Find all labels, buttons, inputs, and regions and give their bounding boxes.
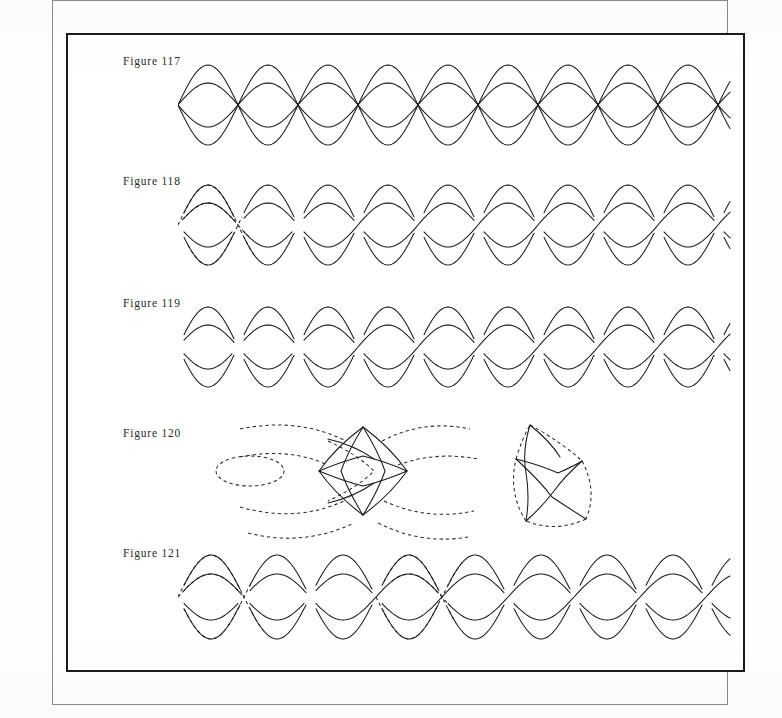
figure-119-label: Figure 119 [123,297,181,309]
construction-line [514,459,526,521]
figure-plate: Figure 117 Figure 118 Figure 119 Figure … [66,33,745,672]
ribbon-line [184,185,730,265]
ribbon-line [184,325,730,369]
figure-121-artwork [178,537,738,663]
ribbon-line [184,307,730,387]
construction-line [240,453,328,465]
ribbon-line [184,185,730,265]
ribbon-line [184,203,730,247]
figure-120-artwork [178,411,738,541]
ribbon-line [319,471,407,486]
ribbon-line [178,65,730,145]
ribbon-line [184,555,730,639]
ribbon-line [341,427,363,515]
construction-line [384,555,456,623]
construction-line [516,425,530,459]
construction-line [382,426,470,441]
ribbon-line [525,425,530,521]
ribbon-line [178,83,730,127]
ribbon-line [178,65,730,145]
ribbon-line [184,203,730,247]
ribbon-line [184,325,730,369]
construction-line [582,461,591,519]
ribbon-line [363,427,385,515]
construction-line [398,456,478,465]
ribbon-line [516,459,586,519]
figure-118-artwork [178,171,738,279]
figure-119-artwork [178,291,738,403]
construction-line [248,523,354,538]
construction-line [184,581,252,639]
ribbon-line [184,555,730,639]
construction-line [384,501,474,514]
figure-121-label: Figure 121 [123,547,181,559]
figure-117-label: Figure 117 [123,55,181,67]
construction-line [178,185,256,257]
ribbon-line [178,83,730,127]
ribbon-line [319,456,407,471]
construction-line [530,425,582,461]
figure-plate-inner: Figure 117 Figure 118 Figure 119 Figure … [68,35,743,670]
figure-117-artwork [178,51,738,159]
figure-120-label: Figure 120 [123,427,181,439]
construction-line [392,574,450,606]
ribbon-line [526,461,582,521]
scan-page: Figure 117 Figure 118 Figure 119 Figure … [0,0,782,718]
ribbon-line [184,307,730,387]
construction-line [526,519,586,527]
construction-line [240,425,346,441]
construction-line [178,555,264,631]
figure-118-label: Figure 118 [123,175,181,187]
construction-line [216,456,284,486]
ribbon-line [530,425,560,457]
construction-line [328,441,374,501]
